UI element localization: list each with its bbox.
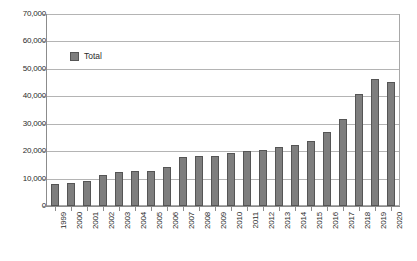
- bar[interactable]: [243, 151, 251, 206]
- x-tick-label: 2007: [187, 212, 196, 229]
- bar-slot: [351, 15, 367, 206]
- x-tick-label: 2012: [267, 212, 276, 229]
- y-tick-label: 60,000: [4, 37, 46, 45]
- bar[interactable]: [307, 141, 315, 206]
- x-tick-label: 2000: [75, 212, 84, 229]
- x-tick-mark: [215, 207, 216, 211]
- bar-slot: [271, 15, 287, 206]
- x-tick-mark: [391, 207, 392, 211]
- bar[interactable]: [195, 156, 203, 206]
- bar-slot: [63, 15, 79, 206]
- x-tick-label: 2018: [363, 212, 372, 229]
- bar-slot: [95, 15, 111, 206]
- x-tick-mark: [343, 207, 344, 211]
- bar[interactable]: [371, 79, 379, 206]
- x-tick-label: 2004: [139, 212, 148, 229]
- bar[interactable]: [211, 156, 219, 206]
- x-tick-label: 2001: [91, 212, 100, 229]
- bar[interactable]: [147, 171, 155, 206]
- x-tick-mark: [151, 207, 152, 211]
- bar[interactable]: [99, 175, 107, 206]
- x-tick-mark: [55, 207, 56, 211]
- bar-slot: [383, 15, 399, 206]
- bar-slot: [191, 15, 207, 206]
- x-tick-label: 2015: [315, 212, 324, 229]
- x-axis-line: [46, 206, 400, 207]
- x-tick-label: 2005: [155, 212, 164, 229]
- bar[interactable]: [131, 171, 139, 206]
- x-tick-label: 2019: [379, 212, 388, 229]
- bar-slot: [159, 15, 175, 206]
- y-tick-label: 30,000: [4, 120, 46, 128]
- bar[interactable]: [323, 132, 331, 206]
- x-tick-mark: [199, 207, 200, 211]
- y-tick-label: 10,000: [4, 175, 46, 183]
- x-tick-label: 2016: [331, 212, 340, 229]
- x-tick-mark: [247, 207, 248, 211]
- bar-slot: [287, 15, 303, 206]
- bar-chart: 70,00060,00050,00040,00030,00020,00010,0…: [0, 0, 417, 261]
- x-tick-mark: [327, 207, 328, 211]
- x-tick-label: 2008: [203, 212, 212, 229]
- x-tick-label: 2009: [219, 212, 228, 229]
- x-tick-label: 2017: [347, 212, 356, 229]
- y-tick-label: 20,000: [4, 147, 46, 155]
- bar-slot: [239, 15, 255, 206]
- x-tick-mark: [279, 207, 280, 211]
- bar-slot: [255, 15, 271, 206]
- bar-slot: [47, 15, 63, 206]
- x-tick-label: 2006: [171, 212, 180, 229]
- x-tick-mark: [119, 207, 120, 211]
- x-tick-mark: [231, 207, 232, 211]
- x-tick-mark: [375, 207, 376, 211]
- bar-slot: [143, 15, 159, 206]
- bar-slot: [111, 15, 127, 206]
- bar[interactable]: [179, 157, 187, 206]
- bar-series-total: [47, 15, 399, 206]
- x-tick-label: 2003: [123, 212, 132, 229]
- bar-slot: [223, 15, 239, 206]
- y-axis: 70,00060,00050,00040,00030,00020,00010,0…: [0, 0, 46, 261]
- bar-slot: [319, 15, 335, 206]
- x-tick-mark: [87, 207, 88, 211]
- bar[interactable]: [51, 184, 59, 206]
- x-tick-mark: [135, 207, 136, 211]
- bar[interactable]: [339, 119, 347, 206]
- x-tick-label: 1999: [59, 212, 68, 229]
- x-tick-mark: [295, 207, 296, 211]
- x-tick-label: 2010: [235, 212, 244, 229]
- bar[interactable]: [115, 172, 123, 206]
- bar[interactable]: [83, 181, 91, 206]
- bar-slot: [303, 15, 319, 206]
- x-tick-label: 2013: [283, 212, 292, 229]
- bar[interactable]: [227, 153, 235, 206]
- bar-slot: [207, 15, 223, 206]
- x-tick-mark: [359, 207, 360, 211]
- x-tick-label: 2002: [107, 212, 116, 229]
- legend-label: Total: [84, 52, 102, 61]
- legend-swatch: [70, 52, 79, 61]
- bar[interactable]: [355, 94, 363, 206]
- x-tick-mark: [183, 207, 184, 211]
- x-tick-label: 2011: [251, 212, 260, 228]
- bar-slot: [175, 15, 191, 206]
- x-tick-label: 2014: [299, 212, 308, 229]
- y-tick-label: 0: [4, 202, 46, 210]
- x-tick-mark: [103, 207, 104, 211]
- bar-slot: [127, 15, 143, 206]
- bar-slot: [367, 15, 383, 206]
- bar[interactable]: [259, 150, 267, 206]
- x-tick-mark: [71, 207, 72, 211]
- y-tick-label: 70,000: [4, 10, 46, 18]
- bar[interactable]: [275, 147, 283, 206]
- bar[interactable]: [163, 167, 171, 206]
- x-tick-mark: [311, 207, 312, 211]
- bar-slot: [335, 15, 351, 206]
- bar[interactable]: [387, 82, 395, 206]
- y-tick-label: 50,000: [4, 65, 46, 73]
- bar-slot: [79, 15, 95, 206]
- x-tick-mark: [263, 207, 264, 211]
- bar[interactable]: [67, 183, 75, 206]
- chart-legend: Total: [70, 52, 102, 61]
- bar[interactable]: [291, 145, 299, 206]
